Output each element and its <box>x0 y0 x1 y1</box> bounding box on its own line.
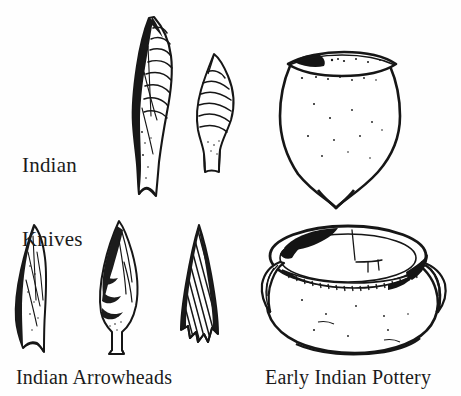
small-chipped-stone-knife <box>190 50 246 175</box>
label-indian-knives: Indian Knives <box>22 103 83 301</box>
stemmed-arrowhead <box>88 218 148 358</box>
conical-base-pot <box>272 44 452 210</box>
artifact-plate: Indian Knives Indian Arrowheads Early In… <box>0 0 461 396</box>
label-indian-knives-line1: Indian <box>22 153 83 178</box>
label-indian-knives-line2: Knives <box>22 227 83 252</box>
large-chipped-stone-knife <box>118 12 194 198</box>
corner-notched-triangular-arrowhead <box>168 222 230 354</box>
wide-mouth-bowl-with-lugs <box>256 218 460 360</box>
label-early-indian-pottery: Early Indian Pottery <box>265 366 431 390</box>
label-indian-arrowheads: Indian Arrowheads <box>16 366 172 390</box>
